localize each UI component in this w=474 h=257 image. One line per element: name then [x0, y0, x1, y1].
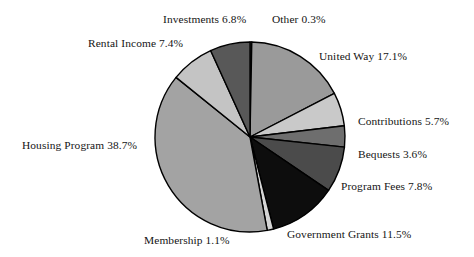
pie-chart-canvas — [0, 0, 474, 257]
slice-label-government-grants: Government Grants 11.5% — [287, 228, 411, 241]
slice-label-housing-program: Housing Program 38.7% — [22, 139, 137, 152]
pie-slice-group — [155, 42, 345, 232]
slice-label-membership: Membership 1.1% — [144, 234, 230, 247]
slice-label-bequests: Bequests 3.6% — [358, 148, 427, 161]
slice-label-other: Other 0.3% — [272, 13, 326, 26]
slice-label-united-way: United Way 17.1% — [319, 50, 407, 63]
slice-label-program-fees: Program Fees 7.8% — [341, 180, 432, 193]
slice-label-contributions: Contributions 5.7% — [358, 115, 449, 128]
pie-chart: Investments 6.8% Other 0.3% Rental Incom… — [0, 0, 474, 257]
slice-label-rental-income: Rental Income 7.4% — [88, 37, 183, 50]
slice-label-investments: Investments 6.8% — [163, 13, 246, 26]
